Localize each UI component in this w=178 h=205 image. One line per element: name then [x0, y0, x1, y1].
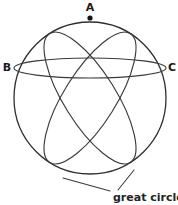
callout-leader-left [63, 178, 110, 191]
great-circle-tilted-right [28, 20, 153, 176]
sphere-diagram-svg: A B C great circles [0, 0, 178, 205]
point-c-label: C [168, 61, 176, 74]
great-circles-figure: A B C great circles [0, 0, 178, 205]
great-circle-tilted-left [28, 20, 153, 176]
point-a-dot [87, 15, 92, 20]
great-circles-callout-label: great circles [113, 191, 178, 204]
great-circle-equator [14, 58, 166, 78]
sphere-outline [14, 22, 166, 174]
point-a-label: A [86, 1, 95, 14]
point-b-label: B [3, 61, 11, 74]
callout-leader-right [118, 170, 134, 190]
